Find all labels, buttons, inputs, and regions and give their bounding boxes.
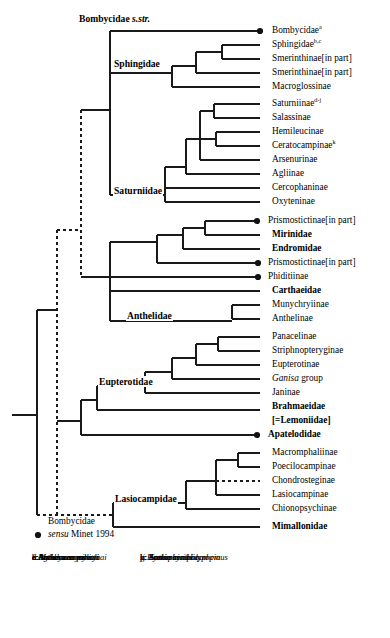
sensu-rest: Minet 1994	[69, 529, 114, 539]
legend-bombycidae-sensu-line1: Bombycidae	[48, 516, 95, 526]
clade-label-anthelidae: Anthelidae	[126, 310, 173, 321]
taxon-arsenurinae: Arsenurinae	[272, 154, 317, 164]
taxon-sphingidae: Sphingidaeb,c	[272, 39, 321, 49]
taxon-salassinae: Salassinae	[272, 112, 311, 122]
cladogram-lines	[0, 0, 390, 638]
sensu-italic: sensu	[48, 529, 69, 539]
taxon-anthelinae: Anthelinae	[272, 313, 313, 323]
dot-legend-symbol	[35, 532, 41, 538]
taxon-janinae: Janinae	[272, 387, 300, 397]
dot-prismostictinae-2	[255, 260, 261, 266]
footnote-marker-dj: d-j	[314, 96, 321, 103]
ganisa-italic: Ganisa	[272, 373, 299, 383]
clade-label-saturniidae: Saturniidae	[113, 185, 163, 196]
taxon-chondrosteginae: Chondrosteginae	[272, 475, 335, 485]
legend-species-k: Lonomia obliqua	[149, 552, 208, 562]
taxon-munychryiinae: Munychryiinae	[272, 299, 329, 309]
taxon-brahmaeidae: Brahmaeidae	[272, 401, 325, 411]
clade-label-lasiocampidae: Lasiocampidae	[114, 493, 178, 504]
taxon-mimallonidae: Mimallonidae	[272, 521, 327, 531]
taxon-ceratocampinae: Ceratocampinaek	[272, 140, 336, 150]
legend-item-k: k: Lonomia obliqua	[140, 552, 208, 563]
taxon-endromidae: Endromidae	[272, 243, 321, 253]
taxon-carthaeidae: Carthaeidae	[272, 285, 321, 295]
figure-canvas: Bombycidae s.str. Sphingidae Saturniidae…	[0, 0, 390, 638]
clade-label-eupterotidae: Eupterotidae	[98, 376, 154, 387]
legend-species-f: Antheraea yamamai	[37, 552, 106, 562]
taxon-prismostictinae-1: Prismostictinae[in part]	[268, 215, 356, 225]
taxon-chionopsychinae: Chionopsychinae	[272, 503, 337, 513]
taxon-prismostictinae-2: Prismostictinae[in part]	[268, 257, 356, 267]
dot-apatelodidae	[254, 432, 260, 438]
taxon-oxyteninae: Oxyteninae	[272, 196, 315, 206]
taxon-smerinthinae-2: Smerinthinae[in part]	[272, 67, 352, 77]
dot-phiditiinae	[255, 274, 261, 280]
dot-bombycidae	[257, 28, 263, 34]
taxon-poecilocampinae: Poecilocampinae	[272, 461, 336, 471]
taxon-lasiocampinae: Lasiocampinae	[272, 489, 328, 499]
footnote-marker-k: k	[332, 138, 335, 145]
taxon-ganisa-group: Ganisa group	[272, 373, 323, 383]
legend-bombycidae-sensu-line2: sensu Minet 1994	[48, 529, 114, 539]
taxon-eupterotinae: Eupterotinae	[272, 359, 320, 369]
taxon-saturniinae: Saturniinaed-j	[272, 98, 321, 108]
taxon-apatelodidae: Apatelodidae	[268, 429, 321, 439]
taxon-agliinae: Agliinae	[272, 168, 304, 178]
clade-label-bombycidae-sstr: Bombycidae s.str.	[78, 13, 151, 24]
dot-prismostictinae-1	[254, 218, 260, 224]
taxon-macromphaliinae: Macromphaliinae	[272, 447, 338, 457]
clade-label-sphingidae: Sphingidae	[113, 58, 161, 69]
legend-item-f: f:Antheraea yamamai	[32, 552, 107, 563]
taxon-smerinthinae-1: Smerinthinae[in part]	[272, 53, 352, 63]
taxon-macroglossinae: Macroglossinae	[272, 81, 331, 91]
taxon-mirinidae: Mirinidae	[272, 229, 312, 239]
taxon-cercophaninae: Cercophaninae	[272, 182, 328, 192]
taxon-phiditiinae: Phiditiinae	[268, 271, 308, 281]
sstr-italic: s.str.	[132, 13, 150, 24]
footnote-marker-a: a	[319, 23, 322, 30]
taxon-hemileucinae: Hemileucinae	[272, 126, 324, 136]
taxon-brahmaeidae-synonym: [=Lemoniidae]	[272, 415, 331, 425]
ganisa-suffix: group	[299, 373, 323, 383]
taxon-bombycidae: Bombycidaea	[272, 25, 322, 35]
taxon-striphnopteryginae: Striphnopteryginae	[272, 345, 343, 355]
taxon-panacelinae: Panacelinae	[272, 331, 316, 341]
footnote-marker-bc: b,c	[314, 37, 321, 44]
